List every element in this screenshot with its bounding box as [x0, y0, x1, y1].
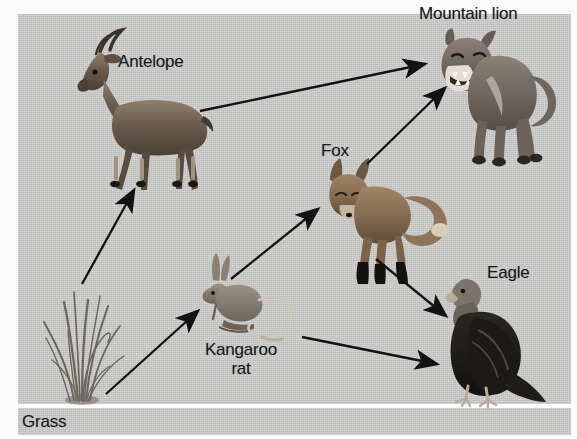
fox-icon	[329, 158, 449, 284]
label-grass: Grass	[22, 412, 66, 431]
grass-base-shadow	[65, 395, 99, 405]
label-antelope: Antelope	[118, 52, 184, 71]
label-kangaroo-rat: Kangaroo rat	[193, 340, 289, 378]
diagram-canvas: Mountain lion Antelope Fox Eagle Kangaro…	[0, 0, 577, 439]
label-eagle: Eagle	[487, 263, 529, 282]
grass-icon	[44, 292, 124, 401]
label-fox: Fox	[321, 141, 349, 160]
kangaroo-rat-icon	[202, 253, 292, 340]
eagle-icon	[446, 279, 546, 408]
mountain-lion-icon	[441, 28, 556, 166]
label-mountain-lion: Mountain lion	[419, 4, 518, 23]
